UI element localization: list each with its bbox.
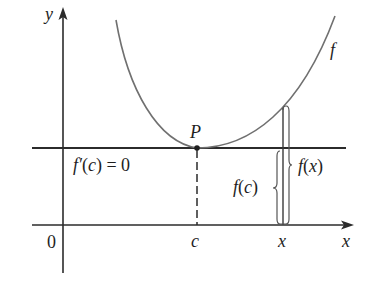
brace-fx bbox=[283, 106, 292, 224]
curve-f bbox=[116, 16, 335, 148]
brace-fc-label: f(c) bbox=[233, 177, 258, 198]
point-p-label: P bbox=[189, 122, 201, 142]
brace-fx-label: f(x) bbox=[298, 156, 323, 177]
origin-label: 0 bbox=[47, 232, 56, 252]
derivative-zero-label: f′(c) = 0 bbox=[73, 155, 130, 176]
tick-c-label: c bbox=[191, 231, 199, 251]
brace-fc bbox=[273, 151, 286, 224]
tick-x-label: x bbox=[277, 231, 286, 251]
point-p bbox=[194, 145, 200, 151]
x-axis-label: x bbox=[341, 231, 350, 251]
curve-label: f bbox=[330, 40, 338, 60]
y-axis-label: y bbox=[43, 4, 53, 24]
minimum-tangent-diagram: y x 0 f P c x f(x) f(c) f′(c) = 0 bbox=[0, 0, 379, 296]
